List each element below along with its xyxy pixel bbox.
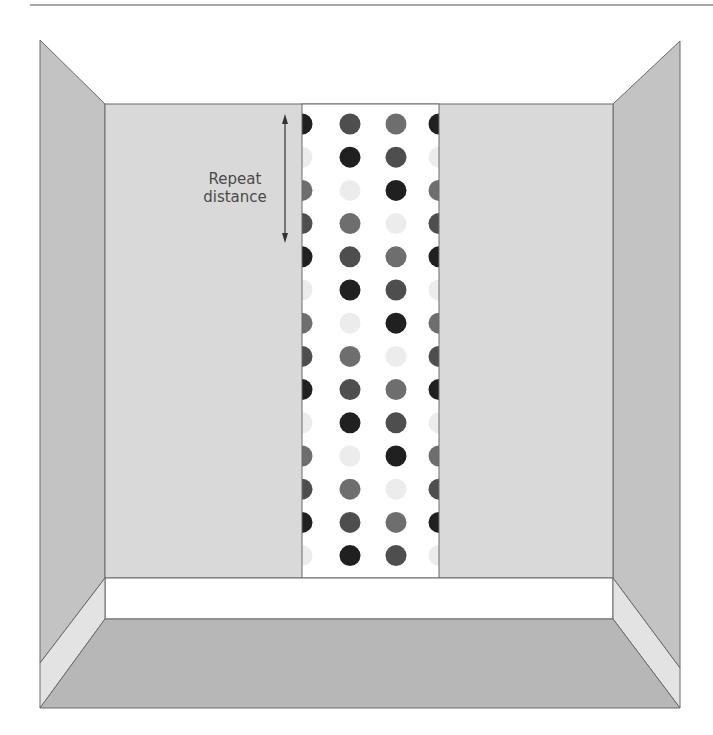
wallpaper-dot	[386, 379, 407, 400]
wallpaper-dot	[386, 346, 407, 367]
floor	[40, 619, 680, 708]
label-line-2: distance	[190, 188, 280, 206]
wallpaper-dot	[386, 180, 407, 201]
repeat-distance-label: Repeat distance	[190, 170, 280, 206]
wallpaper-dot	[340, 313, 361, 334]
wallpaper-dot	[340, 180, 361, 201]
wallpaper-dot	[386, 280, 407, 301]
wallpaper-dot	[340, 346, 361, 367]
wallpaper-dot	[386, 114, 407, 135]
wallpaper-dot	[340, 213, 361, 234]
wallpaper-dot	[386, 412, 407, 433]
left-wall	[40, 40, 105, 663]
wallpaper-dot	[340, 479, 361, 500]
baseboard	[105, 578, 613, 619]
right-wall	[613, 41, 680, 668]
wallpaper-dot	[340, 412, 361, 433]
wallpaper-dot	[340, 280, 361, 301]
wallpaper-dot	[386, 479, 407, 500]
wallpaper-dot	[386, 545, 407, 566]
wallpaper-dot	[340, 512, 361, 533]
label-line-1: Repeat	[190, 170, 280, 188]
wallpaper-dot	[340, 446, 361, 467]
wallpaper-dot	[386, 213, 407, 234]
wallpaper-dot	[386, 313, 407, 334]
wallpaper-dot	[340, 114, 361, 135]
wallpaper-dot	[386, 512, 407, 533]
wallpaper-dot	[340, 379, 361, 400]
wallpaper-dot	[386, 446, 407, 467]
wallpaper-dot	[340, 545, 361, 566]
wallpaper-dot	[340, 246, 361, 267]
wallpaper-dot	[386, 147, 407, 168]
wallpaper-strip	[292, 104, 450, 578]
wallpaper-dot	[386, 246, 407, 267]
wallpaper-dot	[340, 147, 361, 168]
room-wallpaper-diagram	[0, 0, 713, 735]
